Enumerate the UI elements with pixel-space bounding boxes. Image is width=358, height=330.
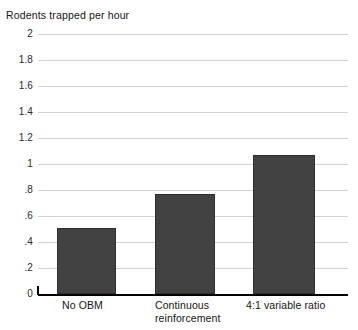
bar <box>57 228 116 294</box>
x-axis-category-label-line1: 4:1 variable ratio <box>246 299 325 312</box>
x-axis-category-label-line2: reinforcement <box>155 312 221 325</box>
gridline <box>38 112 348 113</box>
y-axis-tick-label: .2 <box>0 263 33 273</box>
x-axis-category-label-line1: Continuous <box>155 299 221 312</box>
y-axis-tick-label: .4 <box>0 237 33 247</box>
gridline <box>38 60 348 61</box>
y-axis-tick-label: 1.4 <box>0 107 33 117</box>
x-axis-category-label: Continuousreinforcement <box>155 299 221 324</box>
x-axis-category-label-line1: No OBM <box>62 299 103 312</box>
bar-chart: Rodents trapped per hour 21.81.61.41.21.… <box>0 0 358 330</box>
bar <box>155 194 215 294</box>
gridline <box>38 138 348 139</box>
y-axis-tick-label: .6 <box>0 211 33 221</box>
plot-area <box>38 34 348 294</box>
x-axis-category-label: No OBM <box>62 299 103 312</box>
chart-title: Rodents trapped per hour <box>6 9 129 21</box>
y-axis-tick-label: 1 <box>0 159 33 169</box>
y-axis-tick-label: 1.2 <box>0 133 33 143</box>
bar <box>253 155 315 294</box>
y-axis-tick-label: 1.6 <box>0 81 33 91</box>
gridline <box>38 86 348 87</box>
y-axis-tick-label: 1.8 <box>0 55 33 65</box>
y-axis-tick-label: 2 <box>0 29 33 39</box>
gridline <box>38 34 348 35</box>
x-axis-category-label: 4:1 variable ratio <box>246 299 325 312</box>
axis-baseline <box>38 294 348 296</box>
y-axis-tick-label: .8 <box>0 185 33 195</box>
y-axis-tick-label: 0 <box>0 289 33 299</box>
